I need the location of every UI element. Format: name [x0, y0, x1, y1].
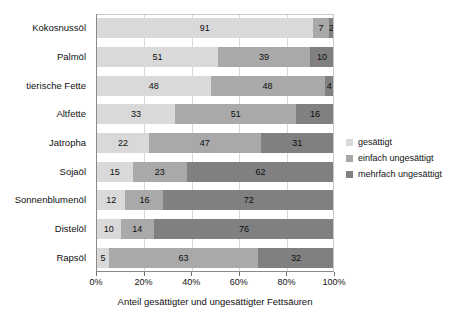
plot-area: 9172513910484843351162247311523621216721… [96, 14, 334, 272]
legend-label: gesättigt [358, 137, 392, 147]
table-row: 48484 [97, 71, 334, 100]
table-row: 513910 [97, 43, 334, 72]
stacked-bar-chart: KokosnussölPalmöltierische FetteAltfette… [0, 0, 468, 325]
table-row: 9172 [97, 14, 334, 43]
axis-tick-label: 40% [182, 277, 200, 287]
category-label: Altfette [0, 100, 92, 129]
axis-tick [334, 272, 335, 276]
axis-tick [239, 272, 240, 276]
stacked-bar: 513910 [97, 47, 334, 67]
bar-segment: 4 [325, 76, 334, 96]
bar-segment: 91 [97, 18, 313, 38]
legend-item: gesättigt [346, 137, 464, 147]
table-row: 121672 [97, 186, 334, 215]
bar-segment: 48 [97, 76, 211, 96]
category-label: Distelöl [0, 215, 92, 244]
bar-segment: 22 [97, 133, 149, 153]
stacked-bar: 101476 [97, 219, 334, 239]
category-label: Sonnenblumenöl [0, 186, 92, 215]
bar-segment: 23 [133, 162, 188, 182]
axis-tick [191, 272, 192, 276]
table-row: 335116 [97, 100, 334, 129]
category-label: Jatropha [0, 129, 92, 158]
category-label: Sojaöl [0, 157, 92, 186]
category-label: Palmöl [0, 43, 92, 72]
stacked-bar: 56332 [97, 248, 334, 268]
table-row: 224731 [97, 129, 334, 158]
table-row: 101476 [97, 215, 334, 244]
legend-label: mehrfach ungesättigt [358, 169, 442, 179]
axis-tick-label: 0% [89, 277, 102, 287]
x-axis-tick-labels: 0%20%40%60%80%100% [96, 277, 334, 291]
bar-segment: 76 [154, 219, 334, 239]
axis-tick-label: 60% [230, 277, 248, 287]
stacked-bar: 335116 [97, 104, 334, 124]
bar-segment: 31 [261, 133, 334, 153]
category-label: Kokosnussöl [0, 14, 92, 43]
bar-segment: 72 [163, 190, 334, 210]
bar-segment: 7 [313, 18, 330, 38]
bar-segment: 47 [149, 133, 260, 153]
stacked-bar: 152362 [97, 162, 334, 182]
bar-segment: 39 [218, 47, 310, 67]
legend: gesättigteinfach ungesättigtmehrfach ung… [346, 137, 464, 185]
legend-item: mehrfach ungesättigt [346, 169, 464, 179]
bar-segment: 10 [97, 219, 121, 239]
bar-segment: 12 [97, 190, 125, 210]
category-axis: KokosnussölPalmöltierische FetteAltfette… [0, 14, 92, 272]
legend-item: einfach ungesättigt [346, 153, 464, 163]
bar-segment: 16 [296, 104, 334, 124]
axis-tick-label: 80% [277, 277, 295, 287]
bar-rows: 9172513910484843351162247311523621216721… [97, 14, 334, 272]
stacked-bar: 224731 [97, 133, 334, 153]
bar-segment: 15 [97, 162, 133, 182]
axis-tick-label: 20% [135, 277, 153, 287]
legend-swatch-icon [346, 171, 353, 178]
category-label: Rapsöl [0, 243, 92, 272]
stacked-bar: 48484 [97, 76, 334, 96]
axis-tick [96, 272, 97, 276]
bar-segment: 33 [97, 104, 175, 124]
bar-segment: 14 [121, 219, 154, 239]
table-row: 56332 [97, 243, 334, 272]
bar-segment: 63 [109, 248, 258, 268]
bar-segment: 16 [125, 190, 163, 210]
bar-segment: 5 [97, 248, 109, 268]
axis-tick-label: 100% [322, 277, 345, 287]
category-label: tierische Fette [0, 71, 92, 100]
axis-tick [286, 272, 287, 276]
legend-swatch-icon [346, 155, 353, 162]
bar-segment: 2 [329, 18, 334, 38]
bar-segment: 10 [310, 47, 334, 67]
bar-segment: 51 [97, 47, 218, 67]
bar-segment: 51 [175, 104, 296, 124]
bar-segment: 48 [211, 76, 325, 96]
legend-label: einfach ungesättigt [358, 153, 434, 163]
stacked-bar: 121672 [97, 190, 334, 210]
bar-segment: 62 [187, 162, 334, 182]
x-axis-title: Anteil gesättigter und ungesättigter Fet… [96, 296, 334, 307]
axis-tick [144, 272, 145, 276]
bar-segment: 32 [258, 248, 334, 268]
legend-swatch-icon [346, 139, 353, 146]
stacked-bar: 9172 [97, 18, 334, 38]
table-row: 152362 [97, 157, 334, 186]
